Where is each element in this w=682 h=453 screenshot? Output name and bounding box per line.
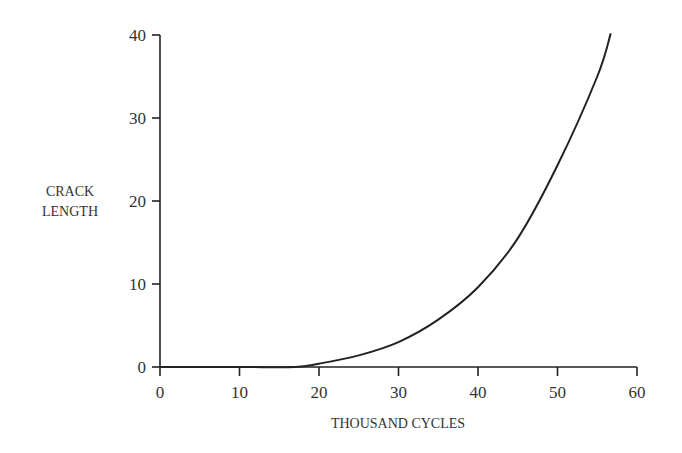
- y-ticks: 010203040: [129, 26, 160, 377]
- x-tick-label: 30: [390, 383, 407, 402]
- x-tick-label: 40: [470, 383, 487, 402]
- y-axis-title-line-2: LENGTH: [42, 204, 98, 219]
- y-tick-label: 0: [138, 358, 147, 377]
- x-tick-label: 20: [311, 383, 328, 402]
- x-axis: 0102030405060: [156, 367, 646, 402]
- crack-growth-chart: 010203040 0102030405060 CRACK LENGTH THO…: [0, 0, 682, 453]
- y-tick-label: 20: [129, 192, 146, 211]
- y-tick-label: 10: [129, 275, 146, 294]
- y-tick-label: 30: [129, 109, 146, 128]
- y-axis: 010203040: [129, 26, 160, 377]
- x-axis-title: THOUSAND CYCLES: [331, 416, 465, 431]
- y-tick-label: 40: [129, 26, 146, 45]
- x-tick-label: 0: [156, 383, 165, 402]
- x-tick-label: 10: [231, 383, 248, 402]
- x-tick-label: 50: [549, 383, 566, 402]
- crack-length-curve: [160, 33, 611, 367]
- y-axis-title-line-1: CRACK: [46, 184, 94, 199]
- x-ticks: 0102030405060: [156, 367, 646, 402]
- x-tick-label: 60: [629, 383, 646, 402]
